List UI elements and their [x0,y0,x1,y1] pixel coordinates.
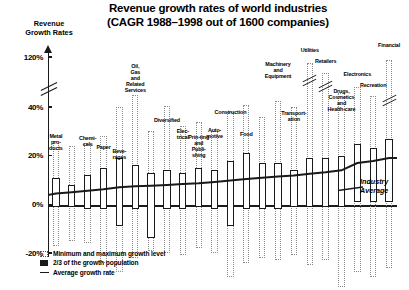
growth-population-box [147,173,154,239]
industry-label: Retailers [312,58,340,64]
growth-population-box [116,158,123,226]
industry-average-annotation: IndustryAverage [360,178,388,195]
growth-population-box [259,163,266,209]
industry-label: Recreation [358,82,388,88]
growth-population-box [274,163,281,209]
y-axis-caption: RevenueGrowth Rates [18,20,80,37]
growth-population-box [195,168,202,207]
growth-population-box [84,175,91,209]
chart-title-line1: Revenue growth rates of world industries [68,2,368,16]
industry-label: Auto-motive [204,127,226,139]
growth-population-box [52,178,59,207]
industry-label: Oil,GasandRelatedServices [120,63,150,93]
growth-population-box [227,161,234,227]
industry-label: Construction [210,109,250,115]
industry-label: Utilities [297,47,323,53]
y-tick-label-120: 120% [9,53,43,62]
chart-legend: Minimum and maximum growth level2/3 of t… [40,249,165,277]
y-tick-label-40: 40% [9,103,43,112]
growth-population-box [306,158,313,207]
industry-label: Drugs,CosmeticsandHealth-care [327,88,355,112]
growth-population-box [338,156,345,207]
industry-label: Transport-ation [281,110,307,122]
industry-label: Electronics [340,71,374,77]
industry-average-pointer [336,184,364,194]
legend-swatch-line [40,272,49,274]
chart-title-line2: (CAGR 1988–1998 out of 1600 companies) [68,16,368,30]
y-tick-label-neg20: -20% [9,249,43,258]
legend-item: Average growth rate [40,268,165,277]
legend-item: Minimum and maximum growth level [40,249,165,258]
growth-population-box [179,173,186,210]
growth-population-box [211,170,218,209]
industry-label: Diversified [150,117,184,123]
industry-label: Food [235,131,257,137]
chart-root: Revenue growth rates of world industries… [0,0,409,290]
legend-swatch-filled-box [40,260,48,267]
industry-label: Financial [374,42,404,48]
growth-population-box [132,165,139,209]
legend-label: Minimum and maximum growth level [53,249,165,258]
legend-label: 2/3 of the growth population [53,258,138,267]
industry-label: Metalpro-ducts [45,133,67,151]
growth-population-box [290,170,297,207]
y-tick-label-0: 0% [9,200,43,209]
growth-population-box [100,168,107,209]
growth-population-box [322,158,329,207]
legend-label: Average growth rate [53,268,115,277]
growth-population-box [68,185,75,207]
legend-swatch-dotted-box [40,251,48,257]
chart-title: Revenue growth rates of world industries… [68,2,368,29]
y-tick-label-20: 20% [9,151,43,160]
plot-area [48,52,397,257]
industry-label: Beve-rages [108,148,130,160]
growth-population-box [243,153,250,209]
industry-label: MachineryandEquipment [261,61,295,79]
legend-item: 2/3 of the growth population [40,258,165,267]
growth-population-box [163,170,170,209]
